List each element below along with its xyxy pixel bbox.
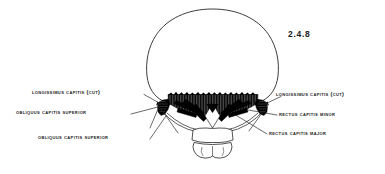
suboccipital-triangle-group bbox=[174, 99, 251, 128]
anatomy-illustration bbox=[0, 0, 385, 174]
label-longissimus-capitis-cut-right: Longissimus capitis (cut) bbox=[276, 92, 344, 98]
figure-number: 2.4.8 bbox=[288, 30, 310, 39]
label-rectus-capitis-major-right: Rectus capitis major bbox=[269, 131, 326, 137]
label-longissimus-capitis-cut-left: Longissimus capitis (cut) bbox=[32, 90, 100, 96]
anatomical-figure: Longissimus capitis (cut) Obliquus capit… bbox=[0, 0, 385, 174]
leader-rectus-major-right bbox=[234, 114, 267, 134]
label-rectus-capitis-minor-right: Rectus capitis minor bbox=[279, 112, 335, 118]
leader-obliquus-upper-left bbox=[131, 107, 158, 114]
leader-obliquus-lower-left bbox=[150, 116, 166, 139]
label-obliquus-capitis-superior-lower-left: Obliquus capitis superior bbox=[38, 135, 108, 141]
atlas-vertebra bbox=[192, 128, 233, 143]
label-obliquus-capitis-superior-upper-left: Obliquus capitis superior bbox=[16, 110, 86, 116]
cervical-vertebrae bbox=[192, 128, 233, 158]
